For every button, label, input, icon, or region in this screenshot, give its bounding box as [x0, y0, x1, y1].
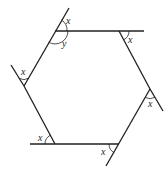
label-bottom-right-exterior: x	[100, 146, 106, 157]
angle-arc-bottom-left-exterior	[45, 135, 50, 144]
angle-arc-bottom-right-exterior	[109, 144, 114, 153]
label-top-right-exterior: x	[127, 34, 133, 45]
label-left-exterior: x	[20, 66, 26, 77]
label-bottom-left-exterior: x	[37, 132, 43, 143]
hexagon-diagram: x y x x x x x	[0, 0, 168, 174]
hexagon-figure: x y x x x x x	[0, 0, 168, 174]
lower-right-side	[106, 89, 150, 166]
label-top-left-interior: y	[61, 38, 67, 49]
label-right-exterior: x	[147, 98, 153, 109]
angle-arc-left-exterior	[19, 78, 28, 79]
label-top-left-exterior: x	[65, 15, 71, 26]
